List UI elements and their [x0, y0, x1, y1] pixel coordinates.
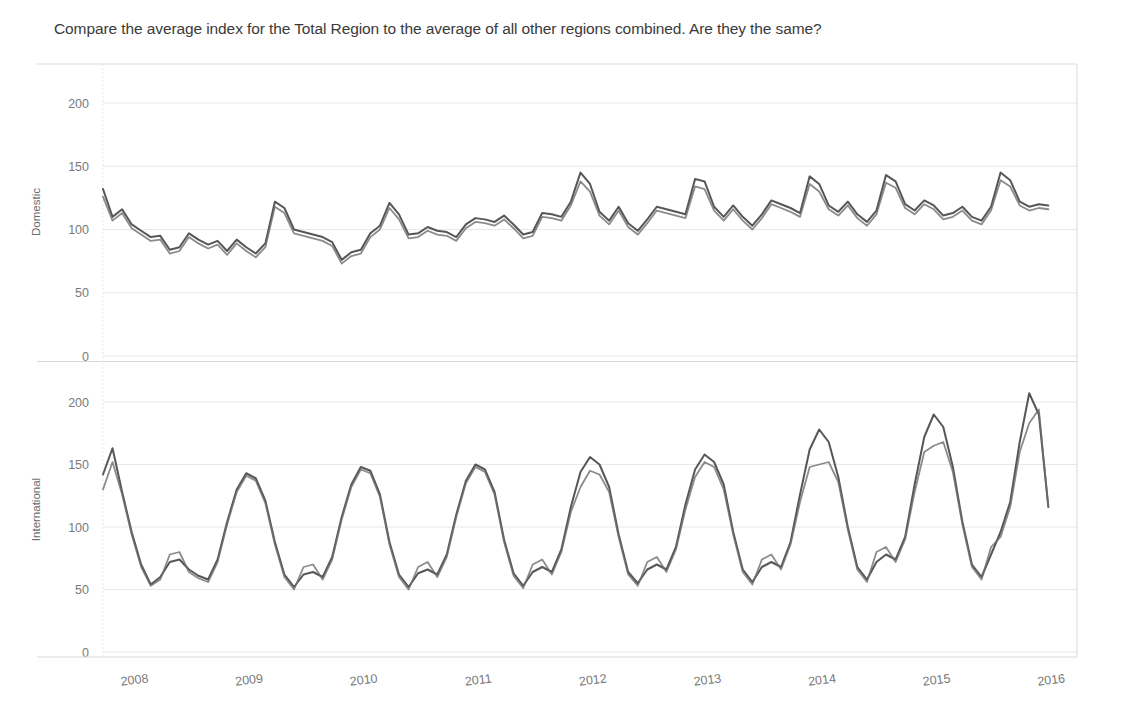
x-tick-label: 2008 [120, 671, 149, 688]
chart-frame [37, 64, 1077, 657]
y-axis-title: Domestic [30, 188, 42, 236]
y-tick-label: 200 [68, 97, 89, 111]
series-line [103, 180, 1048, 263]
y-tick-label: 100 [68, 223, 89, 237]
y-tick-label: 50 [75, 286, 89, 300]
y-tick-label: 200 [68, 396, 89, 410]
x-axis: 200820092010201120122013201420152016 [120, 671, 1066, 688]
x-tick-label: 2009 [234, 671, 263, 688]
series-line [103, 173, 1048, 260]
x-tick-label: 2013 [693, 671, 722, 688]
x-tick-label: 2014 [807, 671, 836, 688]
series-line [103, 393, 1048, 587]
x-tick-label: 2011 [464, 671, 492, 688]
x-tick-label: 2016 [1037, 671, 1066, 688]
panel-international: 050100150200International [30, 363, 1077, 660]
x-tick-label: 2012 [578, 671, 607, 688]
y-tick-label: 50 [75, 583, 89, 597]
panel-domestic: 050100150200Domestic [30, 64, 1077, 364]
dual-panel-line-chart: 050100150200Domestic 050100150200Interna… [0, 0, 1122, 726]
series-line [103, 410, 1048, 590]
y-tick-label: 100 [68, 521, 89, 535]
y-tick-label: 150 [68, 458, 89, 472]
x-tick-label: 2015 [922, 671, 951, 688]
y-tick-label: 150 [68, 160, 89, 174]
y-axis-title: International [30, 478, 42, 541]
x-tick-label: 2010 [349, 671, 378, 688]
